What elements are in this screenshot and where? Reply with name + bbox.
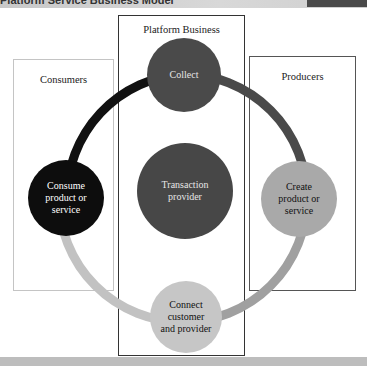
consume-label: Consume product or service [40,180,92,216]
transaction-provider-label: Transaction provider [155,179,215,203]
collect-label: Collect [170,69,199,81]
connect-node: Connect customer and provider [150,281,222,353]
create-node: Create product or service [261,161,337,237]
footer-bar [0,357,367,366]
transaction-provider-node: Transaction provider [137,143,233,239]
consume-node: Consume product or service [28,160,104,236]
collect-node: Collect [147,38,221,112]
create-label: Create product or service [273,181,325,217]
connect-label: Connect customer and provider [160,299,212,335]
